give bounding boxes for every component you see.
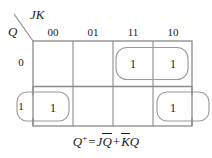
column-variable-label: JK: [30, 8, 44, 21]
column-header-00: 00: [33, 27, 73, 38]
cell-r1-c10: 1: [153, 102, 193, 114]
equation-equals: =: [87, 134, 96, 149]
row-header-0: 0: [13, 57, 29, 68]
cell-r1-c00: 1: [33, 102, 73, 114]
equation-plus: +: [112, 134, 121, 149]
column-header-11: 11: [113, 27, 153, 38]
equation-term1-var2-negated: Q: [102, 133, 111, 150]
equation-lhs: Q: [73, 134, 82, 149]
derived-equation: Q+=JQ+KQ: [0, 133, 212, 150]
karnaugh-map-figure: JK Q 00 01 11 10 0 1 1 1 1 1 Q+=JQ+KQ: [0, 0, 212, 158]
column-header-10: 10: [153, 27, 193, 38]
row-variable-label: Q: [8, 25, 17, 38]
cell-r0-c10: 1: [153, 58, 193, 70]
equation-term2-var1-negated: K: [121, 133, 130, 150]
cell-r0-c11: 1: [113, 58, 153, 70]
column-header-01: 01: [73, 27, 113, 38]
row-header-1: 1: [13, 101, 29, 112]
equation-term2-var2: Q: [130, 134, 139, 149]
